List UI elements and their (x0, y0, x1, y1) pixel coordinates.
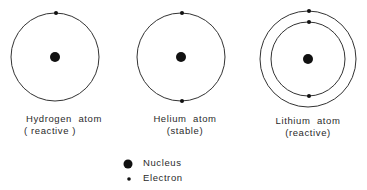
legend-electron: Electron (143, 172, 183, 183)
hydrogen-atom (11, 11, 99, 101)
atom-property: (stable) (135, 125, 235, 137)
hydrogen-label: Hydrogen atom ( reactive ) (14, 113, 114, 137)
electron-icon (307, 94, 311, 98)
legend-electron-label: Electron (143, 172, 183, 183)
electron-icon (180, 11, 184, 15)
helium-label: Helium atom (stable) (135, 113, 235, 137)
legend-nucleus-label: Nucleus (143, 157, 182, 168)
legend-nucleus: Nucleus (143, 157, 182, 168)
atom-property: (reactive) (258, 127, 358, 139)
lithium-label: Lithium atom (reactive) (258, 115, 358, 139)
legend-nucleus-icon (124, 160, 133, 169)
legend-electron-icon (127, 177, 131, 181)
atom-property: ( reactive ) (14, 125, 114, 137)
electron-icon (307, 9, 311, 13)
atom-diagram (0, 0, 367, 190)
nucleus-icon (176, 52, 186, 62)
electron-icon (54, 11, 58, 15)
lithium-atom (260, 9, 356, 107)
nucleus-icon (50, 52, 60, 62)
atom-name: Hydrogen atom (14, 113, 114, 125)
helium-atom (137, 11, 225, 103)
electron-icon (180, 99, 184, 103)
nucleus-icon (303, 54, 313, 64)
atom-name: Helium atom (135, 113, 235, 125)
electron-icon (307, 20, 311, 24)
atom-name: Lithium atom (258, 115, 358, 127)
